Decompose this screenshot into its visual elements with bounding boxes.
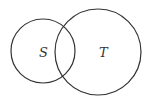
set-s-label: S [39, 45, 48, 60]
set-t-circle [55, 9, 141, 95]
set-t-label: T [99, 45, 109, 60]
venn-diagram: S T [0, 0, 151, 100]
